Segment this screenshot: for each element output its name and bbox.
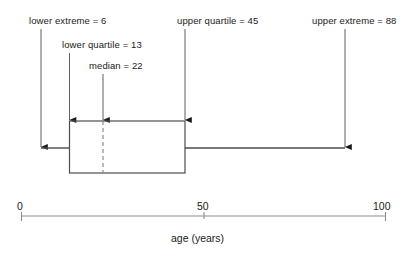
- annotation-upper-quartile: upper quartile = 45: [177, 15, 258, 26]
- axis-tick-label-50: 50: [197, 200, 209, 212]
- box-plot-figure: lower extreme = 6 lower quartile = 13 me…: [0, 0, 414, 260]
- annotation-upper-extreme: upper extreme = 88: [312, 15, 396, 26]
- axis-title: age (years): [171, 232, 224, 244]
- annotation-median: median = 22: [89, 60, 143, 71]
- interquartile-box: [70, 121, 186, 173]
- annotation-lower-quartile: lower quartile = 13: [62, 39, 142, 50]
- axis-tick-label-0: 0: [17, 200, 23, 212]
- axis-tick-label-100: 100: [373, 200, 391, 212]
- annotation-lower-extreme: lower extreme = 6: [29, 15, 106, 26]
- axis-scale: [21, 212, 386, 221]
